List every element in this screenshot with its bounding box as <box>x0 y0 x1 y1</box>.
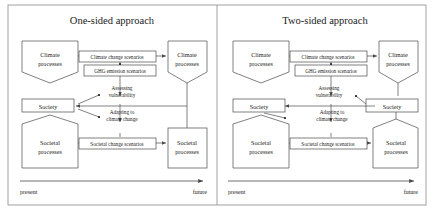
axis-label-future-R: future <box>404 189 419 195</box>
label-ccs-R: Climate change scenarios <box>301 54 354 60</box>
label-ccs-L: Climate change scenarios <box>90 54 143 60</box>
label-societal-future-L: Societal <box>177 139 197 146</box>
label-ghg-L: GHG emission scenarios <box>94 68 146 74</box>
label-societal-present-R: Societal <box>251 139 271 146</box>
label-ghg-R: GHG emission scenarios <box>305 68 357 74</box>
label-climate-present-L: Climate <box>40 51 60 58</box>
diagram-svg: One-sided approach Climate processes <box>0 0 433 211</box>
axis-label-future-L: future <box>193 189 208 195</box>
label-scs-R: Societal change scenarios <box>301 141 354 147</box>
label-societal-future-R: Societal <box>386 139 406 146</box>
label-av1-L: Assessing <box>112 85 133 91</box>
label-scs-L: Societal change scenarios <box>90 141 143 147</box>
label-society-future-R: Society <box>383 103 402 110</box>
figure-container: One-sided approach Climate processes <box>0 0 433 211</box>
label-climate-present-R: Climate <box>251 51 271 58</box>
arrow-ad-society-L <box>78 109 99 117</box>
label-societal-present-L: Societal <box>40 139 60 146</box>
axis-label-present-L: present <box>20 189 38 195</box>
label-climate-present2-R: processes <box>249 60 273 67</box>
label-society-present-L: Society <box>39 103 58 110</box>
panel-title-one-sided: One-sided approach <box>70 15 155 26</box>
label-societal-future2-R: processes <box>384 148 408 155</box>
label-ad1-L: Adapting to <box>110 109 135 115</box>
label-ad2-R: climate change <box>316 116 348 122</box>
label-av2-R: vulnerability <box>316 92 343 98</box>
label-ad1-R: Adapting to <box>320 109 345 115</box>
panel-title-two-sided: Two-sided approach <box>282 15 368 26</box>
label-climate-present2-L: processes <box>38 60 62 67</box>
label-societal-present2-L: processes <box>38 148 62 155</box>
label-societal-future2-L: processes <box>175 148 199 155</box>
label-climate-future-R: Climate <box>388 51 408 58</box>
label-av1-R: Assessing <box>319 85 340 91</box>
label-ad2-L: climate change <box>106 116 138 122</box>
label-av2-L: vulnerability <box>109 92 136 98</box>
label-climate-future2-L: processes <box>175 60 199 67</box>
label-society-present-R: Society <box>250 103 269 110</box>
label-societal-present2-R: processes <box>249 148 273 155</box>
axis-label-present-R: present <box>228 189 246 195</box>
arrow-av-society-L <box>78 95 99 104</box>
label-climate-future2-R: processes <box>386 60 410 67</box>
arrow-societyF-av-R <box>356 96 366 104</box>
label-climate-future-L: Climate <box>177 51 197 58</box>
